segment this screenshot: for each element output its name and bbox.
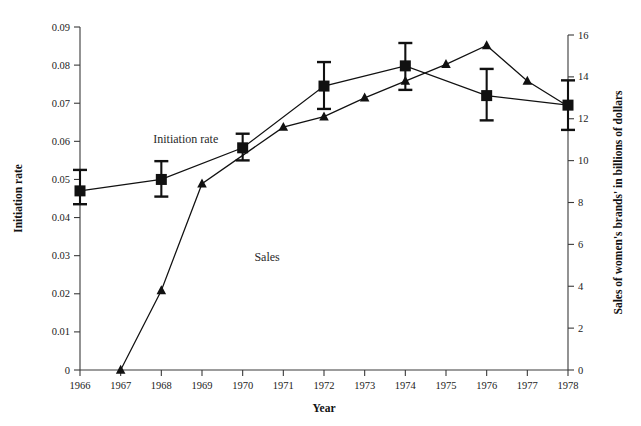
- left-tick-label: 0.04: [52, 212, 71, 223]
- x-tick-label: 1975: [436, 380, 457, 391]
- left-tick-label: 0.06: [52, 136, 70, 147]
- chart-figure: 00.010.020.030.040.050.060.070.080.09 02…: [0, 0, 641, 426]
- initiation-rate-marker: [400, 60, 411, 71]
- x-tick-label: 1969: [192, 380, 213, 391]
- x-tick-label: 1974: [395, 380, 417, 391]
- x-tick-label: 1971: [273, 380, 294, 391]
- left-tick-label: 0.09: [52, 22, 70, 33]
- right-tick-label: 4: [578, 281, 584, 292]
- series-annotation-initiation-rate: Initiation rate: [153, 132, 218, 146]
- initiation-rate-marker: [156, 174, 167, 185]
- x-tick-label: 1972: [314, 380, 335, 391]
- left-tick-label: 0.08: [52, 60, 70, 71]
- x-tick-label: 1968: [151, 380, 172, 391]
- initiation-rate-marker: [75, 185, 86, 196]
- right-tick-label: 12: [578, 113, 589, 124]
- right-tick-label: 14: [578, 71, 589, 82]
- chart-background: [0, 0, 641, 426]
- x-tick-label: 1976: [476, 380, 497, 391]
- series-annotation-sales: Sales: [254, 250, 280, 264]
- initiation-rate-marker: [319, 81, 330, 92]
- x-tick-label: 1978: [558, 380, 579, 391]
- left-tick-label: 0.05: [52, 174, 70, 185]
- x-axis-title: Year: [313, 402, 336, 414]
- x-tick-label: 1970: [232, 380, 253, 391]
- initiation-rate-marker: [237, 142, 248, 153]
- left-tick-label: 0.07: [52, 98, 70, 109]
- right-tick-label: 10: [578, 155, 589, 166]
- x-tick-label: 1977: [517, 380, 538, 391]
- x-tick-label: 1967: [110, 380, 131, 391]
- right-tick-label: 8: [578, 197, 583, 208]
- x-tick-label: 1973: [354, 380, 375, 391]
- right-tick-label: 16: [578, 30, 589, 41]
- right-tick-label: 6: [578, 239, 583, 250]
- left-tick-label: 0.01: [52, 326, 70, 337]
- left-tick-label: 0: [65, 365, 70, 376]
- initiation-rate-marker: [563, 100, 574, 111]
- y2-axis-title: Sales of women's brands' in billions of …: [612, 90, 624, 314]
- left-tick-label: 0.02: [52, 288, 70, 299]
- x-tick-label: 1966: [70, 380, 91, 391]
- initiation-rate-marker: [481, 90, 492, 101]
- right-tick-label: 0: [578, 365, 583, 376]
- left-tick-label: 0.03: [52, 250, 70, 261]
- y-axis-title: Initiation rate: [12, 164, 24, 233]
- right-tick-label: 2: [578, 323, 583, 334]
